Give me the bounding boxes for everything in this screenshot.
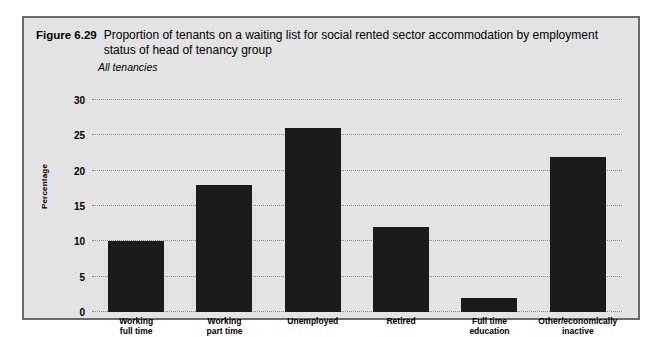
y-tick-label: 5 xyxy=(79,271,85,282)
x-tick-label-line: Full time xyxy=(445,316,533,326)
bar xyxy=(285,128,341,312)
bar-slot xyxy=(534,100,622,312)
bar-slot xyxy=(357,100,445,312)
x-tick-label: Full timeeducation xyxy=(445,316,533,336)
x-tick-label-line: Other/economically xyxy=(534,316,622,326)
x-tick-label-line: Unemployed xyxy=(269,316,357,326)
x-tick-label-line: part time xyxy=(181,326,269,336)
figure-subtitle: All tenancies xyxy=(98,61,626,73)
y-tick-label: 30 xyxy=(74,95,85,106)
x-tick-label-line: full time xyxy=(92,326,180,336)
bar-slot xyxy=(269,100,357,312)
bar xyxy=(196,185,252,312)
x-tick-label-line: inactive xyxy=(534,326,622,336)
chart-area: Percentage 051015202530 Workingfull time… xyxy=(24,86,638,318)
y-tick-label: 10 xyxy=(74,236,85,247)
bar xyxy=(373,227,429,312)
bar xyxy=(550,157,606,312)
x-tick-label-line: education xyxy=(445,326,533,336)
x-tick-label: Workingpart time xyxy=(181,316,269,336)
x-tick-label: Retired xyxy=(357,316,445,336)
bar xyxy=(461,298,517,312)
y-tick-label: 20 xyxy=(74,165,85,176)
figure-number: Figure 6.29 xyxy=(36,29,104,41)
bar-slot xyxy=(181,100,269,312)
bar-slot xyxy=(92,100,180,312)
bar-slot xyxy=(445,100,533,312)
figure-panel: Figure 6.29 Proportion of tenants on a w… xyxy=(22,16,640,320)
plot-area: 051015202530 xyxy=(92,100,622,312)
y-tick-label: 0 xyxy=(79,307,85,318)
y-axis-title: Percentage xyxy=(40,147,49,227)
title-row: Figure 6.29 Proportion of tenants on a w… xyxy=(36,28,626,57)
y-tick-label: 15 xyxy=(74,201,85,212)
x-tick-label-line: Working xyxy=(92,316,180,326)
page-title: Proportion of tenants on a waiting list … xyxy=(104,28,626,57)
y-tick-label: 25 xyxy=(74,130,85,141)
figure-title-block: Figure 6.29 Proportion of tenants on a w… xyxy=(36,28,626,73)
x-tick-label: Workingfull time xyxy=(92,316,180,336)
x-tick-label-line: Working xyxy=(181,316,269,326)
x-tick-label: Other/economicallyinactive xyxy=(534,316,622,336)
bars-layer xyxy=(92,100,622,312)
bar xyxy=(108,241,164,312)
x-axis-labels: Workingfull timeWorkingpart timeUnemploy… xyxy=(92,316,622,336)
x-tick-label: Unemployed xyxy=(269,316,357,336)
x-tick-label-line: Retired xyxy=(357,316,445,326)
